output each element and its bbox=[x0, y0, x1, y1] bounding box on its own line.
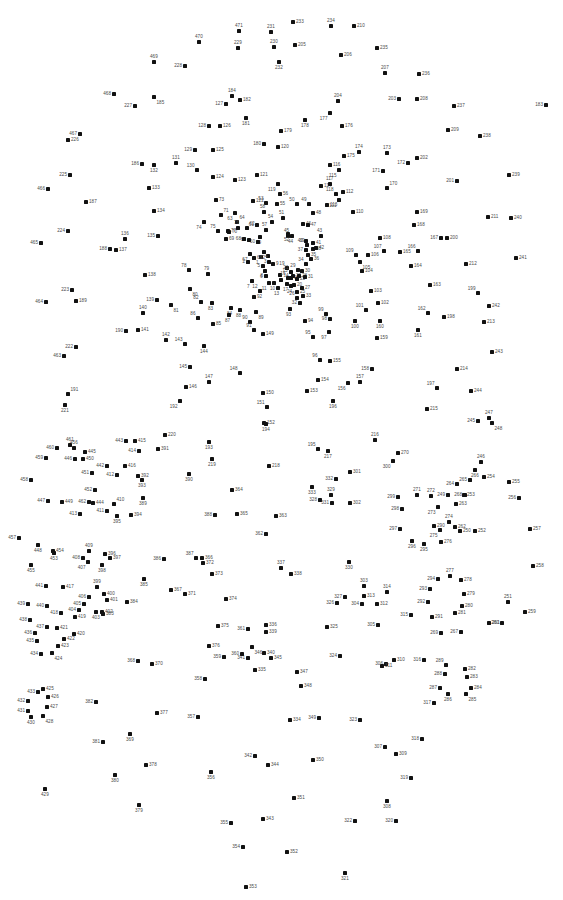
dot-marker bbox=[439, 236, 442, 239]
dot-label: 119 bbox=[268, 187, 275, 192]
dot-marker bbox=[426, 311, 429, 314]
dot-marker bbox=[82, 602, 85, 605]
dot-label: 122 bbox=[256, 198, 264, 203]
dot-label: 425 bbox=[46, 686, 54, 691]
dot-label: 438 bbox=[19, 617, 27, 622]
dot-label: 287 bbox=[429, 685, 437, 690]
dot-marker bbox=[56, 644, 59, 647]
dot-marker bbox=[314, 246, 317, 249]
dot-marker bbox=[383, 71, 386, 74]
dot-marker bbox=[262, 651, 265, 654]
dot-marker bbox=[68, 443, 71, 446]
dot-marker bbox=[420, 737, 423, 740]
dot-label: 462 bbox=[78, 499, 86, 504]
dot-marker bbox=[216, 624, 219, 627]
dot-label: 221 bbox=[61, 408, 69, 413]
dot-label: 186 bbox=[131, 161, 139, 166]
dot-marker bbox=[244, 885, 247, 888]
dot-label: 310 bbox=[397, 657, 405, 662]
dot-marker bbox=[378, 236, 381, 239]
dot-marker bbox=[400, 507, 403, 510]
dot-marker bbox=[328, 111, 331, 114]
dot-marker bbox=[162, 557, 165, 560]
dot-marker bbox=[201, 561, 204, 564]
dot-marker bbox=[219, 213, 222, 216]
dot-label: 351 bbox=[297, 795, 305, 800]
dot-marker bbox=[264, 630, 267, 633]
dot-label: 387 bbox=[186, 551, 194, 556]
dot-marker bbox=[199, 300, 202, 303]
dot-label: 252 bbox=[478, 528, 486, 533]
dot-marker bbox=[255, 173, 258, 176]
dot-marker bbox=[202, 344, 205, 347]
dot-label: 52 bbox=[284, 237, 289, 242]
dot-label: 271 bbox=[413, 487, 421, 492]
dot-marker bbox=[102, 592, 105, 595]
dot-marker bbox=[358, 260, 361, 263]
dot-label: 11 bbox=[262, 286, 267, 291]
dot-label: 97 bbox=[321, 335, 326, 340]
dot-label: 455 bbox=[27, 568, 35, 573]
dot-marker bbox=[316, 378, 319, 381]
dot-label: 319 bbox=[400, 775, 408, 780]
dot-label: 266 bbox=[471, 473, 479, 478]
dot-label: 144 bbox=[200, 349, 208, 354]
dot-marker bbox=[358, 718, 361, 721]
dot-label: 88 bbox=[236, 313, 241, 318]
dot-marker bbox=[211, 175, 214, 178]
dot-label: 257 bbox=[533, 526, 541, 531]
dot-label: 469 bbox=[150, 54, 158, 59]
dot-marker bbox=[203, 677, 206, 680]
dot-label: 205 bbox=[298, 42, 306, 47]
dot-label: 16 bbox=[280, 271, 285, 276]
dot-marker bbox=[33, 631, 36, 634]
dot-marker bbox=[114, 248, 117, 251]
dot-marker bbox=[100, 610, 103, 613]
dot-label: 166 bbox=[408, 244, 416, 249]
dot-label: 120 bbox=[281, 144, 289, 149]
dot-marker bbox=[115, 514, 118, 517]
dot-marker bbox=[288, 718, 291, 721]
dot-label: 213 bbox=[487, 319, 495, 324]
dot-marker bbox=[195, 168, 198, 171]
dot-marker bbox=[304, 248, 307, 251]
dot-label: 177 bbox=[320, 116, 328, 121]
dot-label: 353 bbox=[249, 884, 257, 889]
dot-label: 309 bbox=[399, 751, 407, 756]
dot-label: 352 bbox=[290, 849, 298, 854]
dot-marker bbox=[213, 513, 216, 516]
dot-label: 368 bbox=[127, 658, 135, 663]
dot-label: 327 bbox=[334, 594, 342, 599]
dot-label: 447 bbox=[37, 498, 45, 503]
dot-marker bbox=[354, 253, 357, 256]
dot-label: 227 bbox=[124, 103, 132, 108]
dot-marker bbox=[28, 618, 31, 621]
dot-label: 215 bbox=[430, 406, 438, 411]
dot-marker bbox=[267, 260, 270, 263]
dot-label: 217 bbox=[324, 454, 332, 459]
dot-marker bbox=[209, 770, 212, 773]
dot-label: 247 bbox=[485, 410, 493, 415]
dot-marker bbox=[197, 40, 200, 43]
dot-marker bbox=[207, 380, 210, 383]
dot-label: 85 bbox=[216, 321, 221, 326]
dot-label: 43 bbox=[317, 228, 322, 233]
dot-marker bbox=[169, 588, 172, 591]
dot-label: 301 bbox=[353, 469, 361, 474]
dot-label: 463 bbox=[53, 353, 61, 358]
dot-marker bbox=[36, 543, 39, 546]
dot-marker bbox=[207, 644, 210, 647]
dot-marker bbox=[328, 163, 331, 166]
dot-marker bbox=[360, 602, 363, 605]
dot-label: 308 bbox=[383, 804, 391, 809]
dot-marker bbox=[281, 216, 284, 219]
dot-marker bbox=[100, 563, 103, 566]
dot-label: 369 bbox=[126, 737, 134, 742]
dot-marker bbox=[108, 247, 111, 250]
dot-label: 262 bbox=[458, 524, 466, 529]
dot-label: 338 bbox=[294, 571, 302, 576]
dot-label: 285 bbox=[469, 697, 477, 702]
dot-label: 242 bbox=[492, 303, 500, 308]
dot-label: 90 bbox=[242, 315, 247, 320]
dot-marker bbox=[383, 745, 386, 748]
